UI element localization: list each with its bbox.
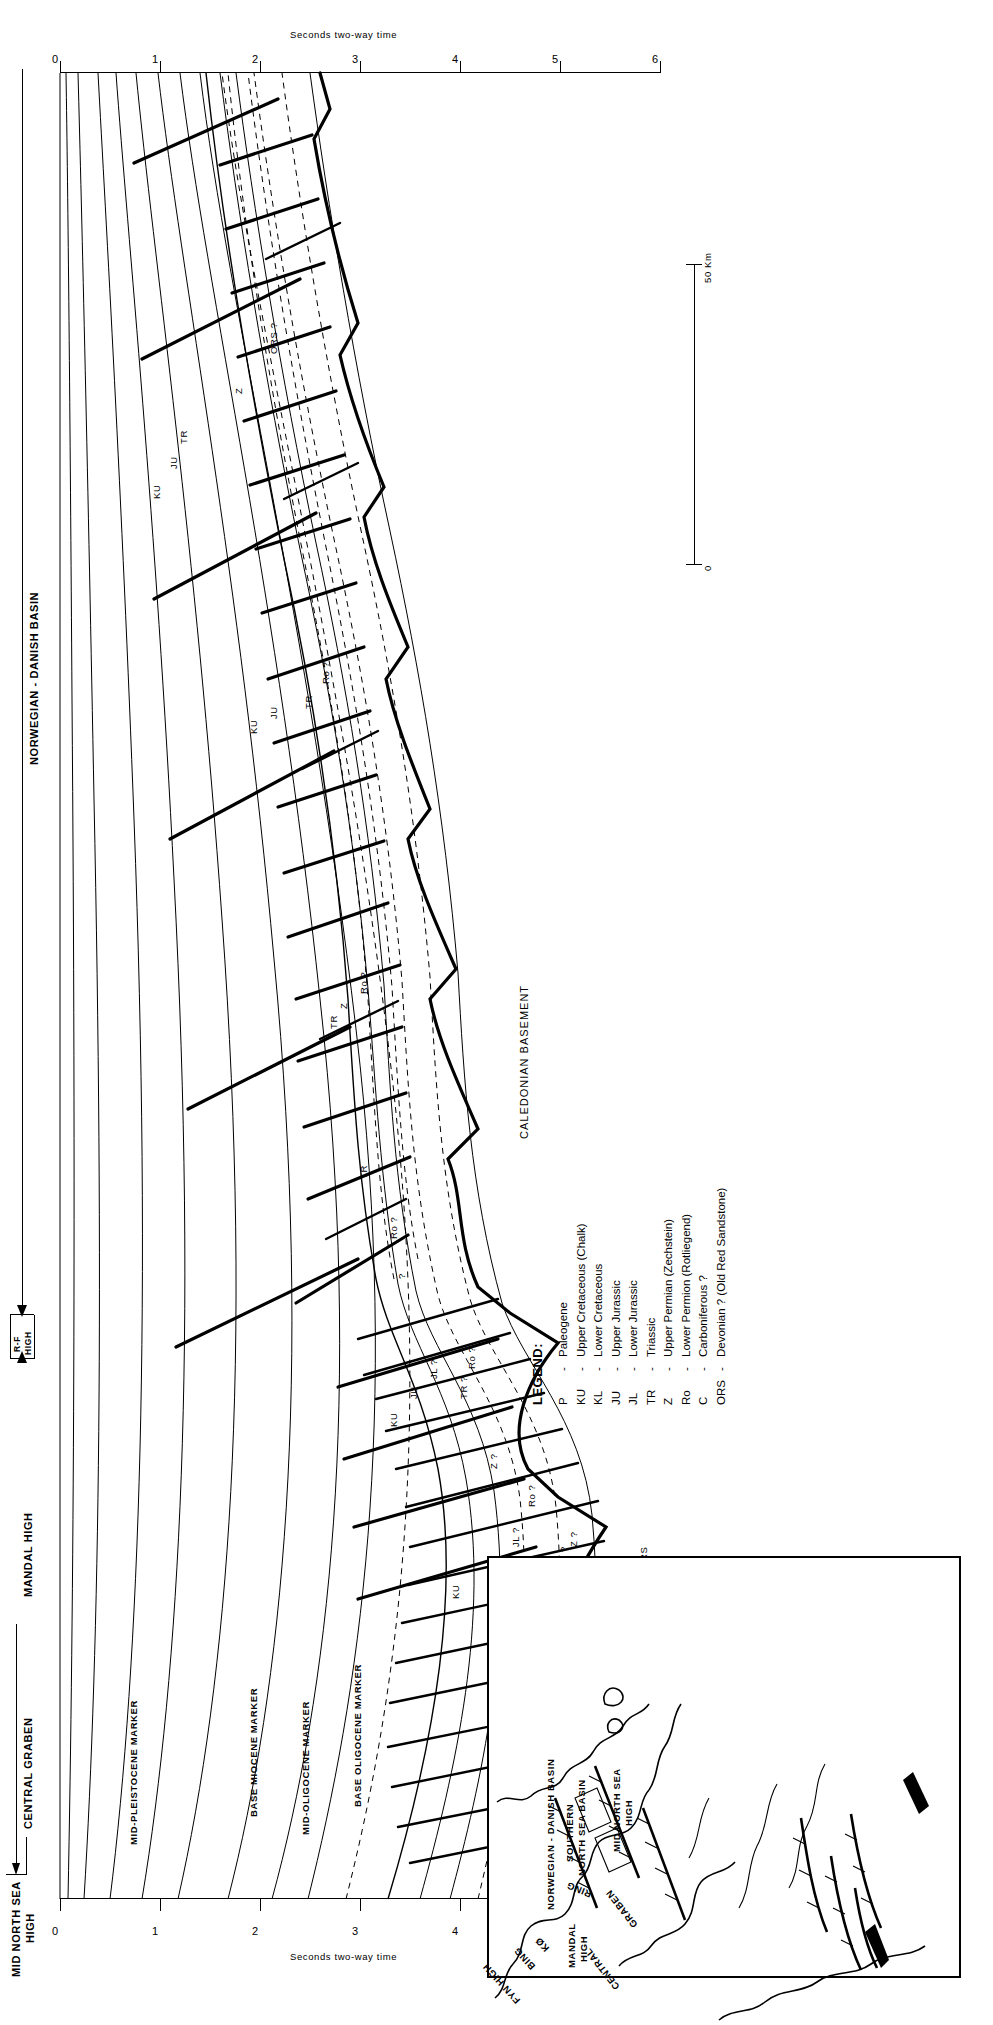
legend-description: Devonian ? (Old Red Sandstone) bbox=[713, 1188, 731, 1357]
unit-label: JU bbox=[408, 1386, 419, 1399]
unit-label: ? bbox=[396, 1273, 407, 1279]
unit-label: KU bbox=[151, 485, 162, 499]
unit-label: JU bbox=[268, 706, 279, 719]
legend-row: KU-Upper Cretaceous (Chalk) bbox=[573, 905, 591, 1405]
rf-high-bar-top bbox=[10, 1315, 11, 1359]
legend-block: LEGEND: P-PaleogeneKU-Upper Cretaceous (… bbox=[530, 905, 960, 1405]
legend-description: Carboniferous ? bbox=[695, 1275, 713, 1357]
unit-label: Ro ? bbox=[358, 972, 369, 994]
legend-row: TR-Triassic bbox=[643, 905, 661, 1405]
unit-label: TR ? bbox=[458, 1376, 469, 1399]
central-graben-arrow bbox=[16, 1624, 17, 1869]
unit-label: TR bbox=[178, 430, 189, 444]
axis-label-left: Seconds two-way time bbox=[290, 1951, 397, 1962]
unit-label: JL ? bbox=[510, 1527, 521, 1547]
legend-dash: - bbox=[625, 1357, 643, 1371]
legend-row: Ro-Lower Permion (Rotliegend) bbox=[678, 905, 696, 1405]
marker-label-2: MID-OLIGOCENE MARKER bbox=[300, 1701, 311, 1835]
legend-row: KL-Lower Cretaceous bbox=[590, 905, 608, 1405]
bracket-left-bar bbox=[26, 1837, 27, 1875]
legend-row: Z-Upper Permian (Zechstein) bbox=[660, 905, 678, 1405]
marker-label-1: BASE MIOCENE MARKER bbox=[248, 1688, 259, 1817]
legend-description: Paleogene bbox=[555, 1302, 573, 1357]
unit-label: TR bbox=[358, 1165, 369, 1179]
unit-label: KU bbox=[248, 720, 259, 734]
unit-label: KU bbox=[450, 1585, 461, 1599]
legend-row: JL-Lower Jurassic bbox=[625, 905, 643, 1405]
legend-code: P bbox=[555, 1371, 573, 1405]
legend-code: C bbox=[695, 1371, 713, 1405]
legend-code: KL bbox=[590, 1371, 608, 1405]
legend-dash: - bbox=[713, 1357, 731, 1371]
legend-dash: - bbox=[660, 1357, 678, 1371]
inset-location-map: NORWEGIAN - DANISH BASINMANDALHIGHCENTRA… bbox=[487, 1556, 961, 1978]
unit-label: JU bbox=[168, 456, 179, 469]
axis-label-right: Seconds two-way time bbox=[290, 29, 397, 40]
legend-dash: - bbox=[695, 1357, 713, 1371]
inset-map-label: SOUTHERN bbox=[564, 1804, 575, 1862]
unit-label: TR bbox=[328, 1015, 339, 1029]
unit-label: Z ? bbox=[568, 1531, 579, 1547]
unit-label: Ro ? bbox=[466, 1347, 477, 1369]
unit-label: Z bbox=[233, 388, 244, 394]
inset-map-label: MANDAL bbox=[566, 1923, 577, 1968]
inset-map-label: KØ bbox=[533, 1935, 552, 1954]
inset-map-label: MID NORTH SEA bbox=[611, 1768, 622, 1852]
legend-description: Lower Permion (Rotliegend) bbox=[678, 1214, 696, 1357]
unit-label: Ro ? bbox=[526, 1485, 537, 1507]
rf-high-bar-bottom bbox=[34, 1315, 35, 1359]
unit-label: Ro ? bbox=[320, 662, 331, 684]
unit-label: TR bbox=[303, 695, 314, 709]
unit-label: KU bbox=[388, 1413, 399, 1427]
legend-code: TR bbox=[643, 1371, 661, 1405]
inset-map-label: HIGH bbox=[623, 1800, 634, 1826]
unit-label: Z ? bbox=[488, 1453, 499, 1469]
unit-label: Z bbox=[338, 1003, 349, 1009]
svg-text:CALEDONIAN BASEMENT: CALEDONIAN BASEMENT bbox=[518, 985, 530, 1139]
legend-dash: - bbox=[590, 1357, 608, 1371]
legend-description: Lower Cretaceous bbox=[590, 1264, 608, 1357]
legend-description: Upper Cretaceous (Chalk) bbox=[573, 1223, 591, 1357]
legend-code: Z bbox=[660, 1371, 678, 1405]
legend-row: P-Paleogene bbox=[555, 905, 573, 1405]
legend-row: ORS-Devonian ? (Old Red Sandstone) bbox=[713, 905, 731, 1405]
inset-map-label: CENTRAL bbox=[582, 1946, 621, 1992]
inset-map-label: GRABEN bbox=[603, 1888, 639, 1930]
scalebar-label: 50 Km bbox=[702, 253, 713, 283]
legend-code: JU bbox=[608, 1371, 626, 1405]
legend-row: C-Carboniferous ? bbox=[695, 905, 713, 1405]
legend-code: KU bbox=[573, 1371, 591, 1405]
legend-code: JL bbox=[625, 1371, 643, 1405]
inset-map-label: BING bbox=[511, 1945, 537, 1972]
legend-dash: - bbox=[573, 1357, 591, 1371]
marker-label-0: MID-PLEISTOCENE MARKER bbox=[128, 1700, 139, 1845]
marker-label-3: BASE OLIGOCENE MARKER bbox=[352, 1664, 363, 1807]
legend-code: ORS bbox=[713, 1371, 731, 1405]
legend-description: Lower Jurassic bbox=[625, 1280, 643, 1357]
legend-code: Ro bbox=[678, 1371, 696, 1405]
unit-label: JL ? bbox=[428, 1359, 439, 1379]
inset-map-label: NORWEGIAN - DANISH BASIN bbox=[545, 1759, 556, 1910]
unit-label: ORS ? bbox=[268, 322, 279, 354]
legend-dash: - bbox=[643, 1357, 661, 1371]
unit-label: Ro ? bbox=[388, 1217, 399, 1239]
legend-dash: - bbox=[608, 1357, 626, 1371]
inset-map-label: NORTH SEA BASIN bbox=[576, 1779, 587, 1876]
legend-title: LEGEND: bbox=[530, 905, 545, 1405]
inset-map-label: RING bbox=[565, 1880, 593, 1900]
legend-description: Upper Permian (Zechstein) bbox=[660, 1219, 678, 1357]
legend-description: Upper Jurassic bbox=[608, 1280, 626, 1357]
legend-row: JU-Upper Jurassic bbox=[608, 905, 626, 1405]
basin-span-line bbox=[22, 69, 23, 1309]
legend-dash: - bbox=[555, 1357, 573, 1371]
legend-dash: - bbox=[678, 1357, 696, 1371]
legend-description: Triassic bbox=[643, 1318, 661, 1357]
